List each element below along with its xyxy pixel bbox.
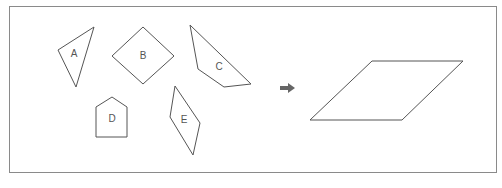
piece-d-label: D [108, 113, 115, 124]
piece-b-label: B [140, 50, 147, 61]
piece-a-label: A [71, 48, 78, 59]
right-arrow-icon [280, 83, 295, 93]
piece-c: C [190, 25, 251, 87]
piece-a: A [58, 27, 94, 87]
diagram-frame [10, 7, 497, 173]
piece-e: E [170, 86, 200, 155]
target-parallelogram [310, 61, 463, 120]
piece-c-label: C [215, 61, 222, 72]
piece-e-label: E [181, 114, 188, 125]
piece-c-shape [190, 25, 251, 87]
piece-b: B [112, 27, 174, 84]
piece-d: D [96, 97, 127, 137]
puzzle-diagram: A B C D E [0, 0, 502, 188]
